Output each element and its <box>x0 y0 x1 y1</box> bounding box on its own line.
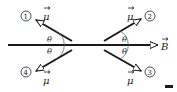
svg-text:μ: μ <box>43 75 50 86</box>
vector-label-4: 4 <box>21 67 31 77</box>
theta-label-3: θ <box>122 47 127 56</box>
corner-mark <box>165 85 173 88</box>
field-label-b: B <box>160 38 168 53</box>
svg-text:B: B <box>160 41 168 52</box>
moment-vector-4 <box>36 50 72 71</box>
svg-text:μ: μ <box>127 75 134 86</box>
mu-label-4: μ <box>43 71 50 87</box>
svg-text:μ: μ <box>43 11 50 22</box>
mu-label-2: μ <box>127 7 134 23</box>
theta-label-4: θ <box>47 47 52 56</box>
mu-label-1: μ <box>43 7 50 23</box>
theta-label-2: θ <box>122 35 127 44</box>
theta-label-1: θ <box>47 35 52 44</box>
svg-text:3: 3 <box>148 69 152 77</box>
vector-label-2: 2 <box>145 11 155 21</box>
magnetic-moment-diagram: B 1 μ 4 μ θ θ 2 μ 3 μ <box>0 0 177 92</box>
svg-text:4: 4 <box>24 69 29 77</box>
vector-label-1: 1 <box>21 11 31 21</box>
svg-text:2: 2 <box>148 13 152 21</box>
mu-label-3: μ <box>127 71 134 87</box>
vector-label-3: 3 <box>145 67 155 77</box>
svg-text:1: 1 <box>24 13 28 21</box>
svg-text:μ: μ <box>127 11 134 22</box>
moment-vector-1 <box>36 20 72 41</box>
